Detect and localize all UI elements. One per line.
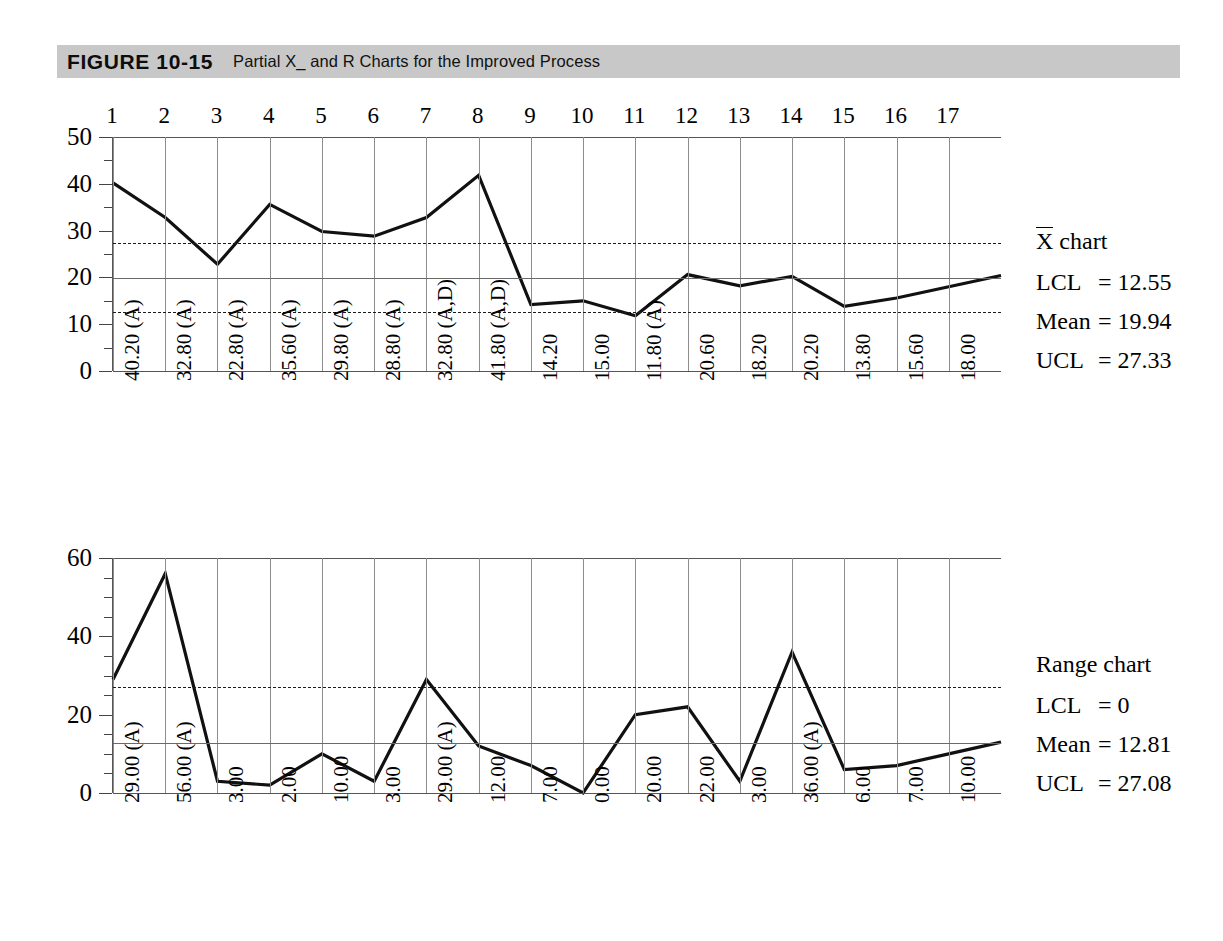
vertical-gridline <box>635 558 636 793</box>
point-value-label: 29.00 (A) <box>120 721 145 803</box>
point-value-label: 36.00 (A) <box>799 721 824 803</box>
y-tick-minor <box>104 656 112 657</box>
vertical-gridline <box>949 558 950 793</box>
y-axis-label: 60 <box>17 545 92 570</box>
series-polyline <box>113 574 1001 793</box>
range-plot-area <box>112 558 1000 793</box>
y-tick-minor <box>104 695 112 696</box>
vertical-gridline <box>740 558 741 793</box>
range-lcl-row: LCL= 0 <box>1036 686 1172 725</box>
y-axis-label: 20 <box>17 702 92 727</box>
y-tick-minor <box>104 676 112 677</box>
point-value-label: 10.00 <box>329 756 354 803</box>
y-tick-minor <box>104 617 112 618</box>
range-mean-row: Mean= 12.81 <box>1036 725 1172 764</box>
y-tick-major <box>99 715 112 716</box>
vertical-gridline <box>270 558 271 793</box>
vertical-gridline <box>583 558 584 793</box>
point-value-label: 20.00 <box>642 756 667 803</box>
y-tick-minor <box>104 578 112 579</box>
range-legend-title: Range chart <box>1036 645 1172 684</box>
point-value-label: 2.00 <box>277 766 302 803</box>
vertical-gridline <box>426 558 427 793</box>
range-legend: Range chart LCL= 0 Mean= 12.81 UCL= 27.0… <box>1036 645 1172 803</box>
y-tick-major <box>99 636 112 637</box>
point-value-label: 29.00 (A) <box>433 721 458 803</box>
vertical-gridline <box>113 558 114 793</box>
y-axis-label: 40 <box>17 623 92 648</box>
vertical-gridline <box>322 558 323 793</box>
y-tick-major <box>99 558 112 559</box>
y-tick-minor <box>104 734 112 735</box>
range-mean-label: Mean <box>1036 725 1098 764</box>
point-value-label: 0.00 <box>590 766 615 803</box>
y-tick-major <box>99 793 112 794</box>
range-ucl-value: = 27.08 <box>1098 770 1172 796</box>
vertical-gridline <box>844 558 845 793</box>
vertical-gridline <box>165 558 166 793</box>
range-lcl-value: = 0 <box>1098 692 1130 718</box>
y-tick-minor <box>104 773 112 774</box>
point-value-label: 22.00 <box>695 756 720 803</box>
plot-top-rule <box>113 558 1001 559</box>
point-value-label: 7.00 <box>904 766 929 803</box>
vertical-gridline <box>531 558 532 793</box>
point-value-label: 6.00 <box>851 766 876 803</box>
vertical-gridline <box>897 558 898 793</box>
point-value-label: 3.00 <box>747 766 772 803</box>
range-mean-value: = 12.81 <box>1098 731 1172 757</box>
ucl-limit-line <box>113 687 1001 688</box>
range-ucl-row: UCL= 27.08 <box>1036 764 1172 803</box>
point-value-label: 3.00 <box>381 766 406 803</box>
point-value-label: 12.00 <box>486 756 511 803</box>
range-ucl-label: UCL <box>1036 764 1098 803</box>
y-tick-minor <box>104 754 112 755</box>
range-series-line <box>113 558 1001 793</box>
vertical-gridline <box>688 558 689 793</box>
range-lcl-label: LCL <box>1036 686 1098 725</box>
y-axis-label: 0 <box>17 780 92 805</box>
mean-limit-line <box>113 743 1001 744</box>
vertical-gridline <box>217 558 218 793</box>
vertical-gridline <box>374 558 375 793</box>
point-value-label: 7.00 <box>538 766 563 803</box>
vertical-gridline <box>479 558 480 793</box>
y-tick-minor <box>104 597 112 598</box>
point-value-label: 3.00 <box>224 766 249 803</box>
point-value-label: 10.00 <box>956 756 981 803</box>
range-control-chart: 0204060 29.00 (A)56.00 (A)3.002.0010.003… <box>0 0 1223 941</box>
vertical-gridline <box>792 558 793 793</box>
point-value-label: 56.00 (A) <box>172 721 197 803</box>
